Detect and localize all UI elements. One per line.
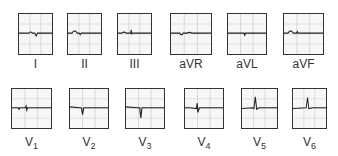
ecg-grid: [68, 14, 101, 54]
ecg-grid: [284, 14, 323, 54]
ecg-grid: [126, 89, 164, 128]
ecg-trace: [185, 103, 223, 112]
ecg-grid: [171, 14, 211, 54]
ecg-grid: [185, 89, 223, 128]
lead-v4-label: V4: [179, 135, 229, 151]
ecg-trace: [70, 107, 108, 115]
lead-v6-panel: [292, 88, 327, 129]
lead-i-label: I: [11, 57, 61, 71]
lead-v1-label: V1: [7, 135, 57, 151]
ecg-grid: [19, 14, 52, 54]
ecg-grid: [242, 89, 277, 128]
lead-avl-label: aVL: [222, 57, 272, 71]
lead-v5-panel: [241, 88, 278, 129]
ecg-grid: [70, 89, 108, 128]
lead-ii-label: II: [60, 57, 110, 71]
ecg-trace: [118, 30, 151, 34]
lead-iii-label: III: [110, 57, 160, 71]
ecg-trace: [284, 31, 323, 33]
ecg-trace: [171, 32, 211, 34]
lead-v2-panel: [69, 88, 109, 129]
lead-i-panel: [18, 13, 53, 55]
lead-iii-panel: [117, 13, 152, 55]
lead-ii-panel: [67, 13, 102, 55]
lead-v2-label: V2: [64, 135, 114, 151]
lead-avr-label: aVR: [166, 57, 216, 71]
lead-v3-panel: [125, 88, 165, 129]
lead-v1-panel: [11, 88, 52, 129]
ecg-grid: [228, 14, 266, 54]
ecg-grid: [293, 89, 326, 128]
lead-v3-label: V3: [120, 135, 170, 151]
lead-avl-panel: [227, 13, 267, 55]
lead-avr-panel: [170, 13, 212, 55]
lead-avf-label: aVF: [279, 57, 329, 71]
lead-v6-label: V6: [285, 135, 335, 151]
lead-v4-panel: [184, 88, 224, 129]
lead-avf-panel: [283, 13, 324, 55]
ecg-trace: [12, 106, 51, 110]
lead-v5-label: V5: [235, 135, 285, 151]
ecg-grid: [118, 14, 151, 54]
ecg-grid: [12, 89, 51, 128]
ecg-trace: [293, 98, 326, 109]
